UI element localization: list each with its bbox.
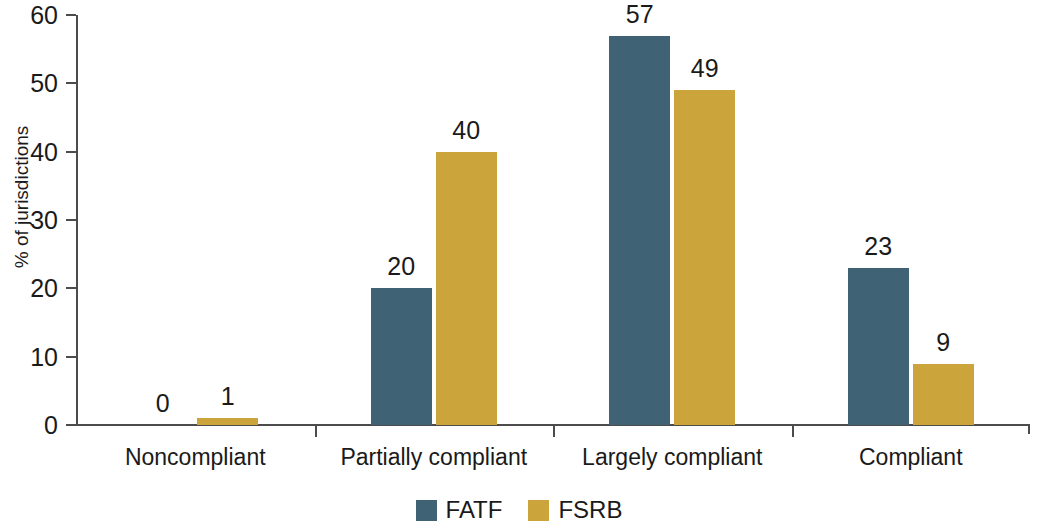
bar-value-label: 57 — [626, 0, 654, 29]
x-axis-category-label: Noncompliant — [125, 444, 266, 471]
bar-fatf-1[interactable] — [371, 288, 432, 425]
y-axis-tick-label: 10 — [0, 342, 58, 371]
x-axis-tick — [553, 426, 555, 437]
y-axis-tick-label: 30 — [0, 206, 58, 235]
bar-fsrb-2[interactable] — [674, 90, 735, 425]
legend-swatch-icon — [528, 500, 549, 521]
x-axis-category-label: Partially compliant — [340, 444, 527, 471]
bar-chart: % of jurisdictions 0102030405060 0120405… — [0, 0, 1038, 530]
legend-label: FATF — [446, 498, 503, 522]
x-axis-tick — [315, 426, 317, 437]
y-axis-tick-label: 0 — [0, 411, 58, 440]
x-axis-end-cap — [1028, 424, 1030, 434]
bar-fsrb-1[interactable] — [436, 152, 497, 425]
legend-item-fsrb[interactable]: FSRB — [528, 498, 622, 522]
legend-label: FSRB — [558, 498, 622, 522]
bar-value-label: 0 — [156, 389, 170, 418]
x-axis-tick — [792, 426, 794, 437]
x-axis-category-label: Largely compliant — [582, 444, 762, 471]
bar-value-label: 23 — [864, 232, 892, 261]
bar-value-label: 20 — [387, 252, 415, 281]
legend-swatch-icon — [416, 500, 437, 521]
y-axis-tick-label: 20 — [0, 274, 58, 303]
y-axis-tick — [66, 356, 76, 358]
y-axis-tick-label: 40 — [0, 137, 58, 166]
y-axis-tick — [66, 424, 76, 426]
legend: FATFFSRB — [0, 498, 1038, 522]
y-axis-tick — [66, 151, 76, 153]
bar-value-label: 9 — [936, 328, 950, 357]
y-axis-tick-labels: 0102030405060 — [0, 0, 58, 530]
y-axis-tick — [66, 219, 76, 221]
y-axis-tick — [66, 287, 76, 289]
bar-fatf-2[interactable] — [609, 36, 670, 426]
x-axis-category-label: Compliant — [859, 444, 963, 471]
bar-value-label: 49 — [691, 54, 719, 83]
y-axis-tick-label: 50 — [0, 69, 58, 98]
legend-item-fatf[interactable]: FATF — [416, 498, 503, 522]
y-axis-tick-label: 60 — [0, 1, 58, 30]
bar-fsrb-0[interactable] — [197, 418, 258, 425]
bar-value-label: 40 — [452, 116, 480, 145]
y-axis-tick — [66, 14, 76, 16]
bar-fatf-3[interactable] — [848, 268, 909, 425]
y-axis-tick — [66, 82, 76, 84]
bar-fsrb-3[interactable] — [913, 364, 974, 426]
plot-area: 0120405749239 — [76, 15, 1030, 425]
bar-value-label: 1 — [221, 382, 235, 411]
